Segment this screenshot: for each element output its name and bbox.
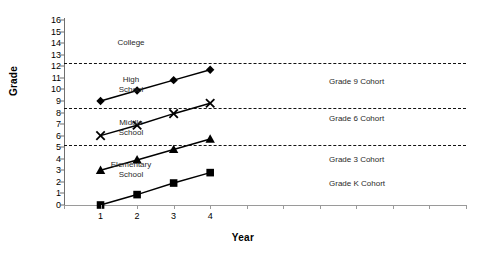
y-axis-tick-mark — [60, 89, 64, 90]
y-axis-tick-label: 16 — [39, 16, 61, 25]
school-band-label: College — [117, 38, 144, 48]
series-legend-label: Grade 3 Cohort — [329, 155, 384, 165]
series-marker — [133, 191, 141, 199]
x-axis-tick-label: 3 — [171, 211, 176, 221]
school-band-label: Middle School — [119, 118, 143, 138]
x-axis-tick-mark — [137, 205, 138, 209]
y-axis-tick-mark — [60, 181, 64, 182]
series-marker — [170, 179, 178, 187]
x-axis-tick-mark — [356, 205, 357, 209]
y-axis-tick-mark — [60, 147, 64, 148]
y-axis-tick-label: 1 — [39, 189, 61, 198]
x-axis-title: Year — [0, 232, 486, 243]
y-axis-tick-mark — [60, 100, 64, 101]
y-axis-tick-label: 0 — [39, 201, 61, 210]
series-legend-label: Grade K Cohort — [329, 179, 385, 189]
series-marker — [169, 109, 177, 117]
series-marker — [169, 76, 177, 84]
y-axis-tick-label: 10 — [39, 85, 61, 94]
x-axis-tick-mark — [101, 205, 102, 209]
x-axis-tick-label: 1 — [98, 211, 103, 221]
series-marker — [96, 131, 104, 139]
y-axis-tick-mark — [60, 170, 64, 171]
y-axis-tick-label: 5 — [39, 143, 61, 152]
y-axis-tick-label: 9 — [39, 96, 61, 105]
plot-area: 0123456789101112131415161234CollegeHigh … — [64, 20, 466, 205]
y-axis-tick-label: 15 — [39, 27, 61, 36]
y-axis-tick-label: 3 — [39, 166, 61, 175]
series-marker — [205, 134, 214, 142]
school-band-divider — [64, 63, 466, 64]
series-line — [101, 70, 211, 101]
y-axis-tick-label: 13 — [39, 50, 61, 59]
x-axis-tick-mark — [210, 205, 211, 209]
x-axis-tick-mark — [320, 205, 321, 209]
school-band-label: High School — [119, 75, 143, 95]
series-marker — [206, 99, 214, 107]
y-axis-tick-label: 11 — [39, 73, 61, 82]
y-axis-tick-mark — [60, 43, 64, 44]
y-axis-tick-label: 14 — [39, 39, 61, 48]
y-axis-tick-mark — [60, 77, 64, 78]
series-marker — [96, 97, 104, 105]
school-band-divider — [64, 145, 466, 146]
y-axis-tick-mark — [60, 112, 64, 113]
y-axis-title: Grade — [8, 66, 19, 96]
x-axis-line — [64, 205, 466, 206]
series-legend-label: Grade 9 Cohort — [329, 77, 384, 87]
y-axis-tick-label: 4 — [39, 154, 61, 163]
y-axis-tick-mark — [60, 66, 64, 67]
x-axis-tick-mark — [64, 205, 65, 209]
x-axis-tick-mark — [247, 205, 248, 209]
y-axis-tick-label: 8 — [39, 108, 61, 117]
y-axis-tick-label: 7 — [39, 120, 61, 129]
x-axis-tick-label: 4 — [208, 211, 213, 221]
series-marker — [206, 169, 214, 177]
series-marker — [206, 66, 214, 74]
y-axis-tick-mark — [60, 124, 64, 125]
x-axis-tick-mark — [466, 205, 467, 209]
x-axis-tick-mark — [429, 205, 430, 209]
x-axis-tick-mark — [283, 205, 284, 209]
school-band-label: Elementary School — [111, 160, 151, 180]
y-axis-tick-label: 12 — [39, 62, 61, 71]
y-axis-tick-mark — [60, 193, 64, 194]
series-legend-label: Grade 6 Cohort — [329, 114, 384, 124]
x-axis-tick-mark — [393, 205, 394, 209]
chart-container: Grade 0123456789101112131415161234Colleg… — [0, 0, 486, 258]
x-axis-tick-label: 2 — [135, 211, 140, 221]
x-axis-tick-mark — [174, 205, 175, 209]
y-axis-tick-mark — [60, 54, 64, 55]
y-axis-tick-mark — [60, 158, 64, 159]
y-axis-tick-mark — [60, 20, 64, 21]
y-axis-tick-label: 6 — [39, 131, 61, 140]
y-axis-tick-label: 2 — [39, 177, 61, 186]
y-axis-tick-mark — [60, 135, 64, 136]
school-band-divider — [64, 108, 466, 109]
y-axis-tick-mark — [60, 31, 64, 32]
